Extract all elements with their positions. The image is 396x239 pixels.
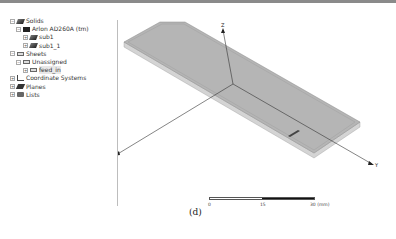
tree-item-label: Lists — [26, 91, 40, 99]
scale-bar-dark-segment — [262, 198, 314, 199]
3d-viewport[interactable]: Z Y — [118, 3, 396, 213]
tree-item-label: Planes — [26, 83, 46, 91]
scale-label-15: 15 — [260, 202, 266, 207]
project-tree: − Solids − Arlon AD260A (tm) + sub1 + su… — [10, 17, 110, 99]
expand-icon[interactable]: + — [23, 35, 28, 40]
expand-icon[interactable]: + — [23, 68, 28, 73]
tree-item-sub1[interactable]: + sub1 — [10, 33, 110, 41]
tree-item-label: Arlon AD260A (tm) — [32, 25, 89, 33]
tree-item-label: sub1_1 — [39, 42, 60, 50]
sheet-icon — [23, 60, 30, 64]
collapse-icon[interactable]: − — [16, 60, 21, 65]
tree-item-coordinate-systems[interactable]: + Coordinate Systems — [10, 74, 110, 82]
sheet-icon — [30, 68, 37, 72]
z-arrow-icon — [221, 28, 225, 33]
expand-icon[interactable]: + — [10, 84, 15, 89]
collapse-icon[interactable]: − — [10, 51, 15, 56]
substrate-board[interactable] — [124, 22, 360, 153]
tree-item-sub1-1[interactable]: + sub1_1 — [10, 42, 110, 50]
lists-icon — [17, 92, 24, 97]
solid-icon — [29, 43, 38, 48]
tree-item-label: Solids — [26, 17, 44, 25]
tree-item-sheets[interactable]: − Sheets — [10, 50, 110, 58]
tree-item-planes[interactable]: + Planes — [10, 83, 110, 91]
solid-icon — [29, 35, 38, 40]
scale-label-30: 30 (mm) — [310, 202, 329, 207]
tree-item-label: Coordinate Systems — [26, 74, 86, 82]
x-axis — [118, 84, 233, 155]
scale-label-0: 0 — [208, 202, 211, 207]
tree-item-material[interactable]: − Arlon AD260A (tm) — [10, 25, 110, 33]
collapse-icon[interactable]: − — [16, 27, 21, 32]
y-arrow-icon — [368, 161, 374, 165]
planes-icon — [16, 84, 25, 89]
z-axis-label: Z — [221, 22, 225, 28]
scale-bar — [209, 197, 315, 200]
expand-icon[interactable]: + — [10, 76, 15, 81]
x-arrow-icon — [118, 151, 120, 156]
coordinate-icon — [17, 75, 24, 81]
sheet-icon — [17, 52, 24, 56]
tree-item-label: Unassigned — [32, 58, 67, 66]
expand-icon[interactable]: + — [10, 92, 15, 97]
material-icon — [23, 27, 30, 32]
tree-item-label: Sheets — [26, 50, 46, 58]
tree-item-label: feed_in — [39, 66, 61, 74]
tree-item-solids[interactable]: − Solids — [10, 17, 110, 25]
tree-item-unassigned[interactable]: − Unassigned — [10, 58, 110, 66]
figure-caption: (d) — [189, 207, 202, 217]
y-axis-label: Y — [374, 162, 379, 168]
tree-item-lists[interactable]: + Lists — [10, 91, 110, 99]
expand-icon[interactable]: + — [23, 43, 28, 48]
tree-item-feed-in[interactable]: + feed_in — [10, 66, 110, 74]
collapse-icon[interactable]: − — [10, 19, 15, 24]
tree-item-label: sub1 — [39, 33, 54, 41]
solid-icon — [16, 19, 25, 24]
